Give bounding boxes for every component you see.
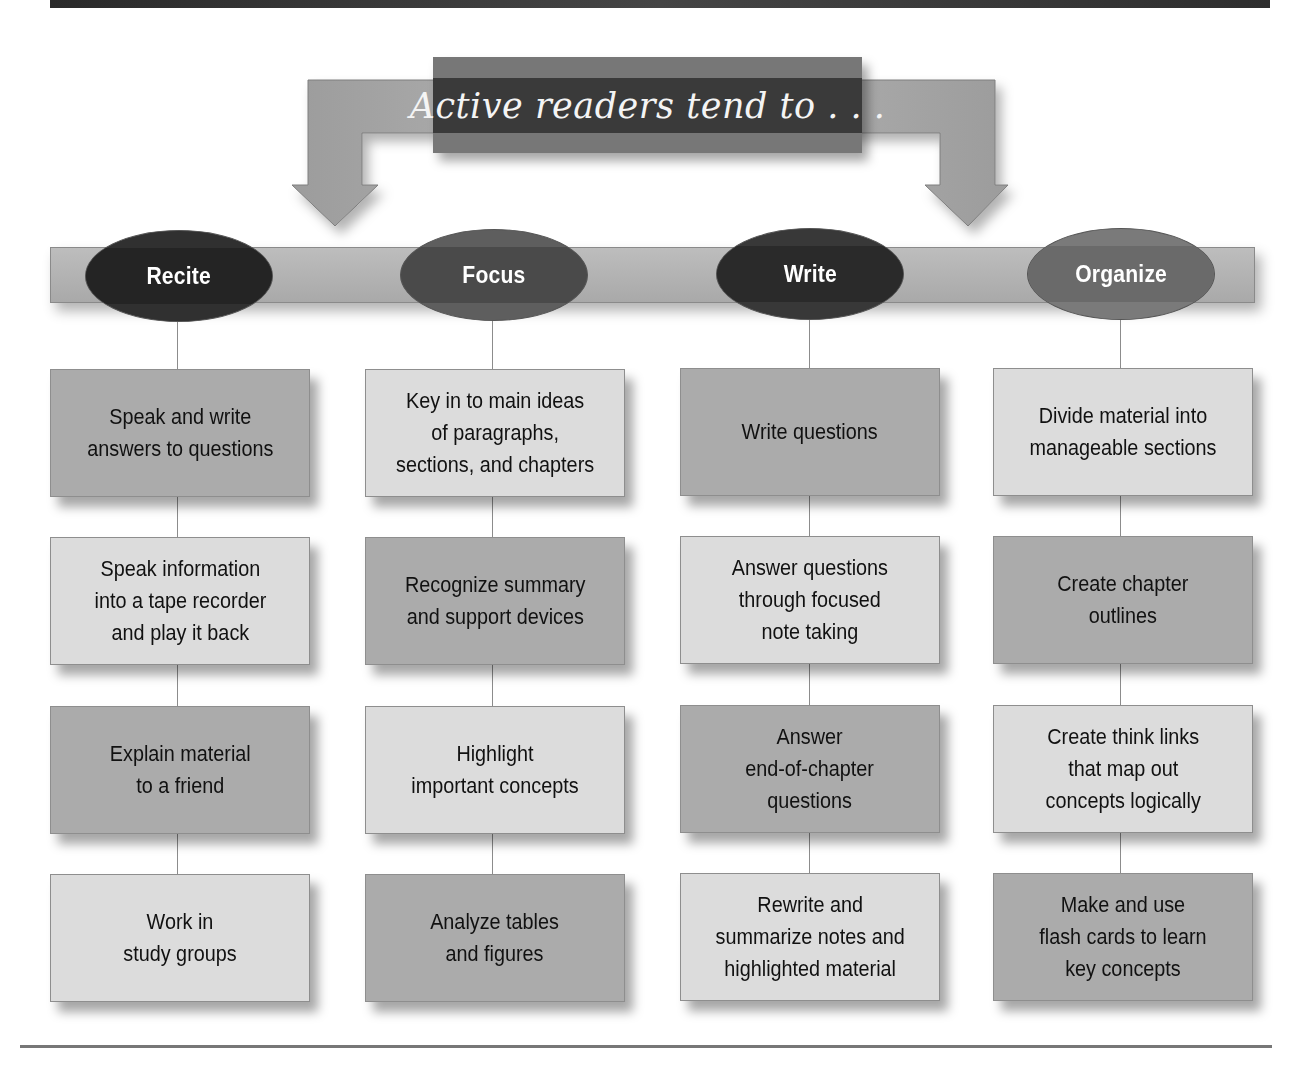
strategy-box: Create chapter outlines <box>993 536 1253 664</box>
strategy-text: Key in to main ideas of paragraphs, sect… <box>396 385 594 481</box>
strategy-text: Divide material into manageable sections <box>1029 400 1216 464</box>
category-label: Organize <box>1075 260 1167 288</box>
strategy-text: Highlight important concepts <box>411 738 578 802</box>
strategy-text: Analyze tables and figures <box>431 906 560 970</box>
strategy-box: Make and use flash cards to learn key co… <box>993 873 1253 1001</box>
strategy-box: Speak information into a tape recorder a… <box>50 537 310 665</box>
title-band: Active readers tend to . . . <box>433 78 862 133</box>
strategy-text: Create think links that map out concepts… <box>1045 721 1200 817</box>
category-label: Focus <box>462 261 525 289</box>
strategy-box: Speak and write answers to questions <box>50 369 310 497</box>
strategy-box: Write questions <box>680 368 940 496</box>
category-oval-focus: Focus <box>400 229 588 321</box>
category-label: Write <box>783 260 836 288</box>
category-oval-write: Write <box>716 228 904 320</box>
category-oval-recite: Recite <box>85 230 273 322</box>
strategy-box: Explain material to a friend <box>50 706 310 834</box>
strategy-text: Create chapter outlines <box>1058 568 1189 632</box>
strategy-box: Create think links that map out concepts… <box>993 705 1253 833</box>
strategy-text: Answer end-of-chapter questions <box>746 721 875 817</box>
diagram-title: Active readers tend to . . . <box>410 86 886 126</box>
strategy-box: Highlight important concepts <box>365 706 625 834</box>
title-box: Active readers tend to . . . <box>433 57 862 153</box>
strategy-box: Answer end-of-chapter questions <box>680 705 940 833</box>
strategy-text: Work in study groups <box>123 906 236 970</box>
category-label: Recite <box>147 262 211 290</box>
strategy-box: Rewrite and summarize notes and highligh… <box>680 873 940 1001</box>
strategy-text: Recognize summary and support devices <box>405 569 585 633</box>
strategy-box: Analyze tables and figures <box>365 874 625 1002</box>
strategy-text: Speak and write answers to questions <box>87 401 273 465</box>
strategy-box: Work in study groups <box>50 874 310 1002</box>
strategy-box: Divide material into manageable sections <box>993 368 1253 496</box>
strategy-box: Key in to main ideas of paragraphs, sect… <box>365 369 625 497</box>
strategy-box: Recognize summary and support devices <box>365 537 625 665</box>
strategy-text: Write questions <box>742 416 878 448</box>
strategy-text: Rewrite and summarize notes and highligh… <box>715 889 904 985</box>
bottom-divider <box>20 1045 1272 1048</box>
strategy-text: Explain material to a friend <box>110 738 251 802</box>
strategy-text: Speak information into a tape recorder a… <box>94 553 266 649</box>
strategy-box: Answer questions through focused note ta… <box>680 536 940 664</box>
strategy-text: Make and use flash cards to learn key co… <box>1039 889 1206 985</box>
category-oval-organize: Organize <box>1027 228 1215 320</box>
strategy-text: Answer questions through focused note ta… <box>732 552 888 648</box>
